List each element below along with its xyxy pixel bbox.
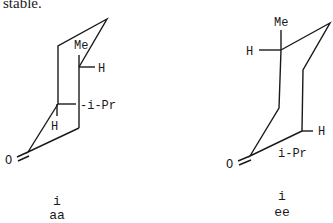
h-label-top: H <box>246 45 253 59</box>
methyl-label: Me <box>74 39 88 53</box>
methyl-label: Me <box>274 16 288 30</box>
oxygen-label: O <box>226 158 233 172</box>
conformer-diagrams: Me H -i-Pr H O i aa Me H H i-Pr O i ee <box>0 0 333 223</box>
ipr-label: -i-Pr <box>80 99 116 113</box>
ipr-label: i-Pr <box>278 147 307 161</box>
carbonyl-bond-1 <box>17 152 28 157</box>
h-label-bottom: H <box>318 125 325 139</box>
compound-number: i <box>53 194 61 209</box>
structure-ee: Me H H i-Pr O i ee <box>226 16 330 220</box>
h-label-top: H <box>98 62 105 76</box>
h-label-bottom: H <box>51 120 58 134</box>
ring-bonds-right <box>281 23 330 131</box>
conformer-label: ee <box>274 205 290 220</box>
conformer-label: aa <box>49 208 65 223</box>
structure-aa: Me H -i-Pr H O i aa <box>5 19 116 223</box>
compound-number: i <box>278 189 286 204</box>
carbonyl-bond-2 <box>239 160 251 165</box>
ring-bonds-left <box>250 50 302 156</box>
oxygen-label: O <box>5 154 12 168</box>
carbonyl-bond-2 <box>18 156 29 161</box>
carbonyl-bond-1 <box>238 156 250 161</box>
